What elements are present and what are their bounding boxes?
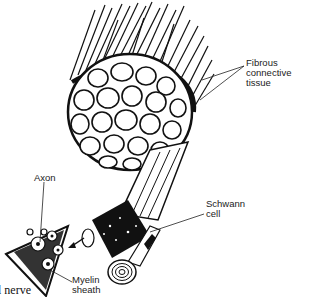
schwann-cell-label: Schwann cell bbox=[206, 199, 245, 219]
myelin-sheath-label: Myelin sheath bbox=[72, 275, 101, 295]
fibrous-label-line2: tissue bbox=[246, 78, 321, 88]
schwann-label-line2: cell bbox=[206, 209, 245, 219]
nerve-caption: l nerve bbox=[0, 284, 31, 296]
schwann-cell-spiral bbox=[108, 260, 136, 284]
nerve-diagram: Fibrous connective tissue Schwann cell A… bbox=[0, 0, 321, 297]
axon-label: Axon bbox=[34, 173, 56, 183]
myelin-label-line2: sheath bbox=[72, 285, 101, 295]
fibrous-tissue-label: Fibrous connective tissue bbox=[246, 58, 321, 88]
nerve-illustration bbox=[0, 0, 321, 297]
fibrous-label-line1: Fibrous connective bbox=[246, 58, 321, 78]
